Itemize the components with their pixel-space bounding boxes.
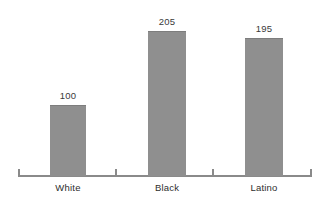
x-axis-tick-right-end	[310, 169, 312, 176]
bar-value-label-white: 100	[48, 90, 88, 101]
bar-value-label-black: 205	[147, 16, 187, 27]
category-label-black: Black	[142, 182, 192, 193]
bar-chart: 100 White 205 Black 195 Latino	[0, 0, 328, 207]
x-axis-tick-between-1-2	[115, 169, 117, 176]
bar-black	[148, 31, 186, 176]
x-axis-tick-between-2-3	[212, 169, 214, 176]
plot-area: 100 White 205 Black 195 Latino	[0, 0, 328, 207]
category-label-white: White	[43, 182, 93, 193]
category-label-latino: Latino	[239, 182, 289, 193]
x-axis-tick-left-end	[18, 169, 20, 176]
bar-latino	[245, 38, 283, 176]
bar-value-label-latino: 195	[244, 23, 284, 34]
bar-white	[50, 105, 86, 176]
